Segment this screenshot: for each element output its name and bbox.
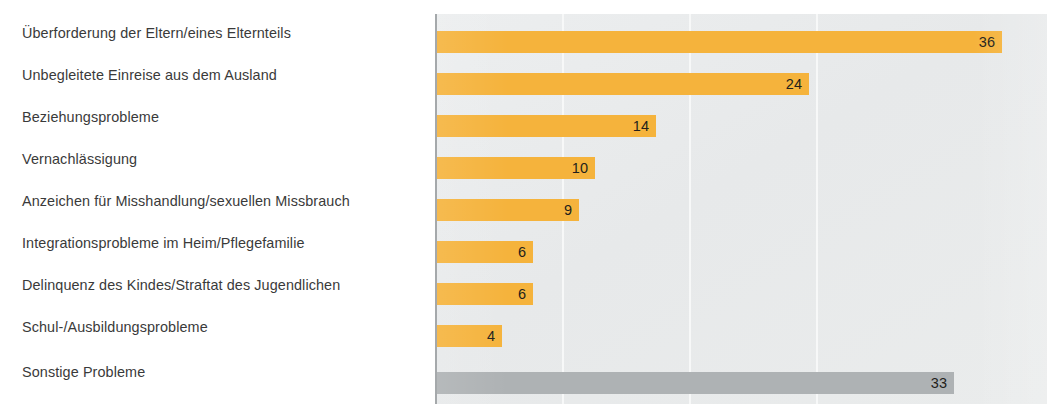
bar-6: 6: [437, 283, 533, 305]
bar-8: 33: [437, 372, 954, 394]
bar-value-2: 14: [633, 115, 649, 137]
bar-value-0: 36: [979, 31, 995, 53]
bar-value-1: 24: [786, 73, 802, 95]
bar-value-6: 6: [518, 283, 526, 305]
category-label: Integrationsprobleme im Heim/Pflegefamil…: [22, 233, 305, 253]
gridline-30: [816, 14, 818, 404]
category-label: Überforderung der Eltern/eines Elterntei…: [22, 23, 291, 43]
category-label: Beziehungsprobleme: [22, 107, 159, 127]
bar-value-3: 10: [572, 157, 588, 179]
horizontal-bar-chart: Überforderung der Eltern/eines Elterntei…: [0, 0, 1058, 417]
category-label: Unbegleitete Einreise aus dem Ausland: [22, 65, 277, 85]
bar-0: 36: [437, 31, 1002, 53]
bar-1: 24: [437, 73, 809, 95]
bar-2: 14: [437, 115, 656, 137]
category-label: Sonstige Probleme: [22, 362, 145, 382]
bar-value-8: 33: [931, 372, 947, 394]
bar-5: 6: [437, 241, 533, 263]
category-label-column: Überforderung der Eltern/eines Elterntei…: [0, 0, 435, 417]
category-label: Anzeichen für Misshandlung/sexuellen Mis…: [22, 191, 350, 211]
category-label: Delinquenz des Kindes/Straftat des Jugen…: [22, 275, 340, 295]
bar-4: 9: [437, 199, 579, 221]
bar-value-4: 9: [564, 199, 572, 221]
bar-value-7: 4: [487, 325, 495, 347]
category-label: Schul-/Ausbildungsprobleme: [22, 317, 208, 337]
bar-value-5: 6: [518, 241, 526, 263]
bar-3: 10: [437, 157, 595, 179]
bar-7: 4: [437, 325, 502, 347]
plot-area: 36 24 14 10 9 6 6 4 33: [435, 14, 1047, 404]
category-label: Vernachlässigung: [22, 149, 137, 169]
